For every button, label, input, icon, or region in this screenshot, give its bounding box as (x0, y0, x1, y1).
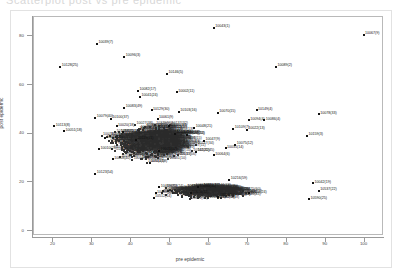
scatter-point-label: 10082(17) (139, 88, 155, 92)
scatter-point-label: 10469(75) (161, 185, 177, 189)
scatter-point-label: 10100(37) (112, 116, 128, 120)
x-tick-label: 20 (44, 241, 60, 246)
scatter-point-label: 10031(10) (170, 157, 186, 161)
y-tick-mark (27, 230, 32, 231)
y-tick-label: 80 (8, 33, 24, 38)
scatter-point-label: 10089(2) (278, 64, 292, 68)
scatter-point-label: 10590(25) (311, 197, 327, 201)
scatter-point-label: 10067(9) (365, 32, 379, 36)
scatter-point-label: 10043(1) (215, 25, 229, 29)
y-tick-mark (27, 133, 32, 134)
scatter-point-label: 10064(14) (141, 144, 157, 148)
scatter-point-label: 10135(56) (180, 153, 196, 157)
scatter-point-label: 10149(4) (258, 108, 272, 112)
scatter-point-label: 10086(4) (266, 118, 280, 122)
scatter-point-label: 10121(45) (198, 149, 214, 153)
scatter-point-label: 10537(22) (320, 188, 336, 192)
scatter-point-label: 10064(6) (215, 153, 229, 157)
scatter-point-label: 10041(24) (141, 94, 157, 98)
y-tick-label: 40 (8, 130, 24, 135)
y-tick-mark (27, 181, 32, 182)
scatter-point-label: 10022(13) (248, 127, 264, 131)
scatter-point-label: 10103(16) (180, 109, 196, 113)
scatter-point-label: 10060(34) (171, 124, 187, 128)
y-tick-label: 0 (8, 228, 24, 233)
scatter-point-label: 10002(11) (178, 90, 194, 94)
y-axis-title: post epidemic (0, 98, 4, 129)
y-axis-line (32, 16, 33, 237)
scatter-point-label: 10124(22) (188, 132, 204, 136)
scatter-point-label: 10216(59) (231, 177, 247, 181)
scatter-point-label: 10128(25) (62, 64, 78, 68)
scatter-point-label: 10512(14) (155, 195, 171, 199)
scatter-point-label: 10035(14) (227, 146, 243, 150)
scatter-point-label: 10046(10) (106, 136, 122, 140)
scatter-point-label: 10051(18) (66, 129, 82, 133)
scatter-point-label: 10021(12) (161, 148, 177, 152)
scatter-point-label: 10146(5) (169, 71, 183, 75)
figure-title-strip: Scatterplot post vs pre epidemic (0, 0, 404, 9)
x-tick-label: 100 (356, 241, 372, 246)
scatter-point-label: 10048(21) (196, 125, 212, 129)
x-tick-label: 60 (200, 241, 216, 246)
y-tick-label: 20 (8, 179, 24, 184)
y-tick-label: 60 (8, 82, 24, 87)
scatter-point-label: 10123(54) (97, 171, 113, 175)
figure-title: Scatterplot post vs pre epidemic (6, 0, 182, 6)
scatter-point-label: 10096(3) (126, 54, 140, 58)
scatter-point-label: 10604(12) (192, 191, 208, 195)
scatter-point-label: 10039(7) (99, 41, 113, 45)
scatter-point-label: 10061(9) (159, 116, 173, 120)
scatter-point-label: 10650(24) (250, 191, 266, 195)
scatter-point-label: 10010(17) (141, 128, 157, 132)
scatterplot-figure: Scatterplot post vs pre epidemic 10129(5… (0, 0, 404, 279)
scatter-point-label: 10157(29) (158, 133, 174, 137)
scatter-point-label: 10083(24) (142, 140, 158, 144)
x-tick-label: 90 (317, 241, 333, 246)
scatter-point-label: 10556(18) (219, 194, 235, 198)
scatter-point-label: 10008(40) (114, 157, 130, 161)
scatter-point-label: 10047(9) (206, 138, 220, 142)
x-tick-label: 70 (239, 241, 255, 246)
scatter-point-label: 10000(17) (124, 148, 140, 152)
scatter-point-label: 10000(37) (162, 140, 178, 144)
x-tick-label: 40 (122, 241, 138, 246)
scatter-point-label: 10129(30) (153, 108, 169, 112)
x-tick-label: 50 (161, 241, 177, 246)
x-axis-title: pre epidemic (176, 256, 205, 262)
scatter-point-label: 10083(49) (126, 105, 142, 109)
x-tick-label: 30 (83, 241, 99, 246)
scatter-point-label: 10062(40) (183, 141, 199, 145)
scatter-point-label: 10003(19) (124, 130, 140, 134)
scatter-point-label: 10119(11) (138, 137, 154, 141)
scatter-point-label: 10159(3) (309, 133, 323, 137)
scatter-point-label: 10042(19) (314, 181, 330, 185)
scatter-point-label: 10070(15) (219, 110, 235, 114)
scatter-point-label: 10020(18) (118, 124, 134, 128)
scatter-point-label: 10078(33) (320, 112, 336, 116)
plot-panel: 10129(55)10042(60)10025(1)10025(23)10029… (33, 16, 383, 235)
scatter-point-label: 10480(30) (200, 185, 216, 189)
scatter-point-label: 10010(25) (101, 147, 117, 151)
y-tick-mark (27, 84, 32, 85)
scatter-point-label: 10011(18) (151, 160, 167, 164)
x-tick-label: 80 (278, 241, 294, 246)
y-tick-mark (27, 35, 32, 36)
scatter-point-label: 10113(8) (56, 124, 70, 128)
scatter-point-label: 10159(39) (127, 151, 143, 155)
